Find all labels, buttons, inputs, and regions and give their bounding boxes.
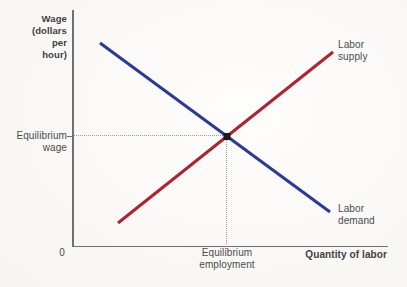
- labor-supply-label-line-1: Labor: [338, 39, 368, 51]
- wage-axis-label-line-4: hour): [0, 49, 67, 61]
- equilibrium-wage-label-line-2: wage: [0, 142, 67, 154]
- equilibrium-employment-label-line-2: employment: [177, 259, 277, 271]
- labor-demand-label: Labor demand: [338, 203, 375, 227]
- labor-demand-label-line-2: demand: [338, 215, 375, 227]
- equilibrium-employment-label-line-1: Equilibrium: [177, 247, 277, 259]
- labor-demand-curve: [100, 43, 330, 212]
- labor-demand-label-line-1: Labor: [338, 203, 375, 215]
- equilibrium-employment-label: Equilibrium employment: [177, 247, 277, 271]
- wage-axis-label: Wage (dollars per hour): [0, 13, 67, 61]
- labor-supply-label: Labor supply: [338, 39, 368, 63]
- x-axis-title: Quantity of labor: [267, 249, 387, 261]
- labor-market-diagram: Wage (dollars per hour) Equilibrium wage…: [0, 0, 407, 287]
- wage-axis-label-line-2: (dollars: [0, 25, 67, 37]
- equilibrium-wage-label: Equilibrium wage: [0, 130, 67, 154]
- origin-label: 0: [56, 247, 68, 259]
- equilibrium-wage-label-line-1: Equilibrium: [0, 130, 67, 142]
- labor-supply-label-line-2: supply: [338, 51, 368, 63]
- wage-axis-label-line-3: per: [0, 37, 67, 49]
- equilibrium-point: [224, 133, 231, 140]
- wage-axis-label-line-1: Wage: [0, 13, 67, 25]
